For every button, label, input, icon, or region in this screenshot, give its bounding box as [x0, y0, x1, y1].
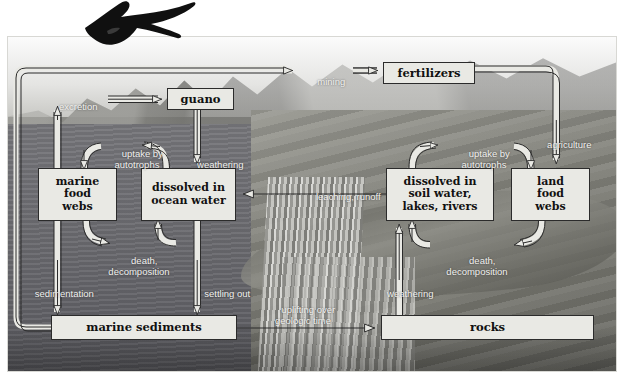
node-marine-sediments[interactable]: marine sediments: [51, 315, 237, 340]
flow-label-text: agriculture: [547, 139, 591, 150]
flow-label-death-decomposition-land: death, decomposition: [437, 244, 517, 277]
node-land-food-webs[interactable]: land food webs: [511, 168, 590, 221]
node-label: marine sediments: [86, 321, 202, 334]
node-label: dissolved in ocean water: [151, 182, 225, 207]
flow-label-uptake-by-autotrophs-land: uptake by autotrophs: [450, 137, 518, 170]
flow-label-text: uptake by autotrophs: [462, 148, 510, 170]
node-fertilizers[interactable]: fertilizers: [383, 62, 475, 84]
figure-canvas: guano fertilizers marine food webs disso…: [0, 0, 625, 382]
node-label: rocks: [470, 321, 505, 334]
connector-death-land-in: [412, 224, 430, 245]
node-label: dissolved in soil water, lakes, rivers: [402, 176, 477, 214]
flow-label-uplifting-over-geologic-time: uplifting over geologic time: [260, 293, 346, 326]
flow-label-text: sedimentation: [35, 288, 94, 299]
flow-label-uptake-by-autotrophs-marine: uptake by autotrophs: [103, 137, 171, 170]
node-label: fertilizers: [397, 67, 460, 80]
node-guano[interactable]: guano: [167, 88, 234, 110]
flow-label-mining: mining: [302, 65, 350, 87]
flow-label-text: leaching, runoff: [316, 191, 381, 202]
flow-label-text: weathering: [197, 159, 243, 170]
flow-label-text: excretion: [59, 101, 98, 112]
flow-label-text: death, decomposition: [108, 255, 169, 277]
node-dissolved-in-soil-water[interactable]: dissolved in soil water, lakes, rivers: [386, 168, 494, 221]
flow-label-text: uptake by autotrophs: [115, 148, 163, 170]
flow-label-leaching-runoff: leaching, runoff: [297, 180, 389, 202]
flow-label-sedimentation: sedimentation: [16, 277, 102, 299]
flow-label-settling-out: settling out: [186, 277, 258, 299]
node-rocks[interactable]: rocks: [381, 315, 594, 340]
node-marine-food-webs[interactable]: marine food webs: [38, 168, 117, 221]
flow-label-weathering-rocks: weathering: [372, 277, 438, 299]
flow-label-weathering-guano: weathering: [184, 148, 246, 170]
flow-label-text: mining: [317, 76, 345, 87]
flow-label-death-decomposition-marine: death, decomposition: [99, 244, 179, 277]
node-dissolved-in-ocean-water[interactable]: dissolved in ocean water: [141, 168, 236, 221]
node-label: marine food webs: [56, 176, 100, 214]
flow-label-text: death, decomposition: [446, 255, 507, 277]
connector-death-marine-in: [158, 224, 176, 243]
flow-label-text: settling out: [204, 288, 250, 299]
flow-label-text: weathering: [387, 288, 433, 299]
node-label: land food webs: [535, 176, 565, 214]
flow-label-excretion: excretion: [42, 90, 104, 112]
flow-label-agriculture: agriculture: [533, 128, 595, 150]
node-label: guano: [181, 93, 221, 106]
flow-label-text: uplifting over geologic time: [275, 304, 335, 326]
